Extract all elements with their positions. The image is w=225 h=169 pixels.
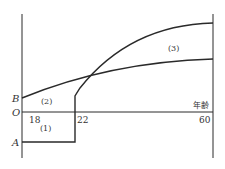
earnings-curve-2 [22,59,213,98]
age-earnings-diagram: B O A 18 22 60 年齢 (1) (2) (3) [0,0,225,169]
label-a: A [11,137,19,148]
tick-60: 60 [199,115,211,125]
region-1-label: (1) [40,124,51,133]
tick-22: 22 [77,115,88,125]
tick-18: 18 [29,115,41,125]
x-axis-label: 年齢 [193,100,209,110]
label-origin: O [12,107,20,118]
region-2-label: (2) [41,97,52,106]
label-b: B [11,93,19,104]
region-3-label: (3) [168,44,179,53]
